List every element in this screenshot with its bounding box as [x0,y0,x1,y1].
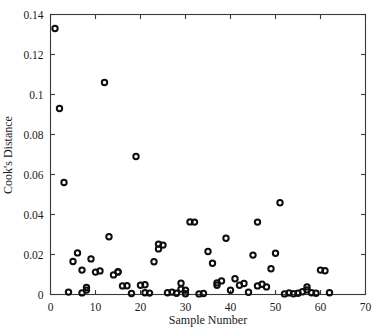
y-axis-title: Cook's Distance [1,116,15,194]
data-point [106,234,111,239]
data-point [322,268,327,273]
data-point [102,80,107,85]
data-point [88,256,93,261]
data-point [219,278,224,283]
data-point [66,289,71,294]
y-tick-label: 0 [38,289,44,301]
data-point [142,282,147,287]
data-point [246,290,251,295]
y-tick-label: 0.08 [23,129,43,141]
data-point [151,259,156,264]
data-point [264,284,269,289]
data-point [70,259,75,264]
plot-frame [51,15,366,295]
data-point [178,281,183,286]
data-point [327,290,332,295]
data-point [223,236,228,241]
data-point [205,249,210,254]
data-point [129,291,134,296]
data-point [268,266,273,271]
data-point [232,276,237,281]
x-axis-tick-labels: 010203040506070 [48,301,372,313]
data-point [241,281,246,286]
data-point [147,290,152,295]
data-point [250,252,255,257]
data-point [79,267,84,272]
x-tick-label: 50 [270,301,282,313]
x-tick-label: 40 [225,301,237,313]
x-tick-label: 70 [360,301,372,313]
data-point [201,291,206,296]
data-point-markers [52,26,332,297]
plot-canvas: 010203040506070 00.020.040.060.080.10.12… [0,0,383,330]
data-point [61,180,66,185]
data-point [313,291,318,296]
data-point [255,219,260,224]
data-point [160,242,165,247]
x-tick-label: 10 [90,301,102,313]
data-point [57,106,62,111]
x-tick-label: 60 [315,301,327,313]
y-tick-label: 0.06 [23,169,43,181]
data-point [277,200,282,205]
data-point [210,261,215,266]
data-point [192,219,197,224]
data-point [52,26,57,31]
x-axis-ticks [51,15,366,295]
data-point [97,268,102,273]
data-point [273,251,278,256]
data-point [75,250,80,255]
y-axis-tick-labels: 00.020.040.060.080.10.120.14 [23,9,43,301]
x-tick-label: 20 [135,301,147,313]
data-point [115,269,120,274]
x-axis-title: Sample Number [169,313,247,327]
y-tick-label: 0.12 [23,49,43,61]
cooks-distance-scatter-figure: 010203040506070 00.020.040.060.080.10.12… [0,0,383,330]
x-tick-label: 30 [180,301,192,313]
y-tick-label: 0.14 [23,9,43,21]
y-tick-label: 0.02 [23,249,43,261]
y-axis-ticks [51,15,366,295]
y-tick-label: 0.04 [23,209,43,221]
data-point [124,283,129,288]
x-tick-label: 0 [48,301,54,313]
data-point [133,154,138,159]
y-tick-label: 0.1 [29,89,44,101]
